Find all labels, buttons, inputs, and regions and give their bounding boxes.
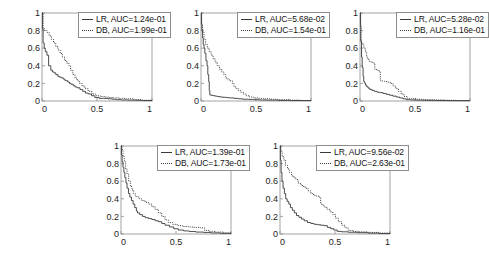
legend-label-lr: LR, AUC=1.24e-01	[96, 14, 166, 25]
legend-3: LR, AUC=5.28e-02 DB, AUC=1.16e-01	[396, 12, 489, 38]
svg-text:0.4: 0.4	[186, 61, 199, 71]
svg-text:0: 0	[194, 96, 199, 106]
legend-row-lr: LR, AUC=5.68e-02	[240, 14, 326, 25]
svg-text:0.5: 0.5	[170, 237, 183, 247]
svg-text:0.5: 0.5	[409, 104, 422, 114]
legend-row-db: DB, AUC=1.73e-01	[160, 158, 246, 169]
legend-1: LR, AUC=1.24e-01 DB, AUC=1.99e-01	[78, 12, 171, 38]
svg-text:0: 0	[35, 96, 40, 106]
legend-marker-db-icon	[160, 159, 173, 168]
svg-text:0.8: 0.8	[186, 26, 199, 36]
svg-text:1: 1	[114, 141, 119, 151]
svg-text:0.4: 0.4	[345, 61, 358, 71]
legend-row-lr: LR, AUC=5.28e-02	[399, 14, 485, 25]
svg-text:0: 0	[280, 237, 285, 247]
svg-text:0.2: 0.2	[186, 79, 199, 89]
chart-panel-4: 00.5100.20.40.60.81 LR, AUC=1.39e-01 DB,…	[101, 143, 235, 251]
legend-marker-db-icon	[81, 26, 94, 35]
svg-text:0.2: 0.2	[265, 212, 278, 222]
svg-text:0.6: 0.6	[265, 176, 278, 186]
svg-text:0.4: 0.4	[27, 61, 40, 71]
svg-text:1: 1	[306, 104, 311, 114]
legend-label-lr: LR, AUC=5.68e-02	[255, 14, 325, 25]
svg-text:0.2: 0.2	[345, 79, 358, 89]
legend-5: LR, AUC=9.56e-02 DB, AUC=2.63e-01	[316, 145, 409, 171]
svg-text:1: 1	[194, 8, 199, 18]
svg-text:0.6: 0.6	[106, 176, 119, 186]
svg-text:0.8: 0.8	[265, 159, 278, 169]
legend-label-db: DB, AUC=2.63e-01	[334, 158, 405, 169]
chart-panel-2: 00.5100.20.40.60.81 LR, AUC=5.68e-02 DB,…	[181, 10, 315, 118]
svg-text:0: 0	[42, 104, 47, 114]
svg-text:1: 1	[465, 104, 470, 114]
svg-text:1: 1	[273, 141, 278, 151]
svg-text:0.4: 0.4	[265, 194, 278, 204]
svg-text:0.2: 0.2	[27, 79, 40, 89]
svg-text:1: 1	[226, 237, 231, 247]
legend-row-db: DB, AUC=1.16e-01	[399, 25, 485, 36]
legend-label-lr: LR, AUC=1.39e-01	[175, 147, 245, 158]
svg-text:0: 0	[121, 237, 126, 247]
svg-text:0: 0	[360, 104, 365, 114]
chart-panel-3: 00.5100.20.40.60.81 LR, AUC=5.28e-02 DB,…	[340, 10, 474, 118]
legend-label-lr: LR, AUC=5.28e-02	[414, 14, 484, 25]
legend-label-lr: LR, AUC=9.56e-02	[334, 147, 404, 158]
svg-text:0.6: 0.6	[345, 43, 358, 53]
legend-row-lr: LR, AUC=9.56e-02	[319, 147, 405, 158]
svg-text:0: 0	[114, 229, 119, 239]
chart-panel-1: 00.5100.20.40.60.81 LR, AUC=1.24e-01 DB,…	[22, 10, 156, 118]
svg-text:1: 1	[353, 8, 358, 18]
svg-text:0: 0	[201, 104, 206, 114]
legend-marker-db-icon	[240, 26, 253, 35]
legend-label-db: DB, AUC=1.73e-01	[175, 158, 246, 169]
svg-text:0.6: 0.6	[186, 43, 199, 53]
svg-text:1: 1	[385, 237, 390, 247]
svg-text:0.8: 0.8	[345, 26, 358, 36]
legend-marker-lr-icon	[81, 15, 94, 24]
svg-text:0.2: 0.2	[106, 212, 119, 222]
legend-label-db: DB, AUC=1.99e-01	[96, 25, 167, 36]
legend-marker-lr-icon	[160, 148, 173, 157]
svg-text:0: 0	[273, 229, 278, 239]
svg-text:0.8: 0.8	[106, 159, 119, 169]
legend-label-db: DB, AUC=1.54e-01	[255, 25, 326, 36]
legend-marker-db-icon	[399, 26, 412, 35]
svg-text:0.5: 0.5	[329, 237, 342, 247]
svg-text:0: 0	[353, 96, 358, 106]
legend-2: LR, AUC=5.68e-02 DB, AUC=1.54e-01	[237, 12, 330, 38]
legend-marker-lr-icon	[240, 15, 253, 24]
svg-text:1: 1	[147, 104, 152, 114]
legend-marker-lr-icon	[399, 15, 412, 24]
legend-row-db: DB, AUC=2.63e-01	[319, 158, 405, 169]
legend-label-db: DB, AUC=1.16e-01	[414, 25, 485, 36]
chart-panel-5: 00.5100.20.40.60.81 LR, AUC=9.56e-02 DB,…	[260, 143, 394, 251]
svg-text:0.8: 0.8	[27, 26, 40, 36]
legend-marker-db-icon	[319, 159, 332, 168]
legend-row-lr: LR, AUC=1.24e-01	[81, 14, 167, 25]
legend-row-lr: LR, AUC=1.39e-01	[160, 147, 246, 158]
svg-text:0.6: 0.6	[27, 43, 40, 53]
svg-text:0.4: 0.4	[106, 194, 119, 204]
legend-row-db: DB, AUC=1.99e-01	[81, 25, 167, 36]
legend-row-db: DB, AUC=1.54e-01	[240, 25, 326, 36]
svg-text:0.5: 0.5	[91, 104, 104, 114]
svg-text:1: 1	[35, 8, 40, 18]
svg-text:0.5: 0.5	[250, 104, 263, 114]
legend-marker-lr-icon	[319, 148, 332, 157]
legend-4: LR, AUC=1.39e-01 DB, AUC=1.73e-01	[157, 145, 250, 171]
